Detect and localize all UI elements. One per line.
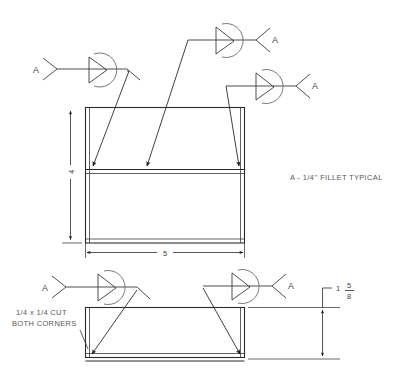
width-dimension: 5 xyxy=(86,243,245,259)
thickness-dim-whole: 1 xyxy=(336,284,340,293)
cut-note-line-2: BOTH CORNERS xyxy=(12,319,77,328)
drawing-canvas: 4 5 xyxy=(0,0,407,383)
height-dim-value: 4 xyxy=(67,170,76,174)
cut-note-line-1: 1/4 x 1/4 CUT xyxy=(16,308,67,317)
weld-symbol-upper-left-label: A xyxy=(33,65,39,75)
weld-symbol-lower-left[interactable]: A xyxy=(42,271,150,305)
width-dim-value: 5 xyxy=(163,249,167,258)
leader-lines-upper xyxy=(93,40,239,166)
fillet-typical-note: A - 1/4'' FILLET TYPICAL xyxy=(290,173,383,182)
weld-symbol-lower-right-label: A xyxy=(288,281,294,291)
weld-symbol-upper-right-label: A xyxy=(312,81,318,91)
weld-symbol-upper-center-label: A xyxy=(272,35,278,45)
weld-symbol-upper-right[interactable]: A xyxy=(226,70,318,104)
height-dimension: 4 xyxy=(62,111,82,243)
weld-symbol-upper-center[interactable]: A xyxy=(188,24,278,58)
weld-symbol-lower-right[interactable]: A xyxy=(203,270,294,304)
welding-drawing-page: 4 5 xyxy=(0,0,407,383)
thickness-dim-numerator: 5 xyxy=(347,281,351,290)
thickness-dimension: 1 5 8 xyxy=(248,281,354,359)
weld-symbol-upper-left[interactable]: A xyxy=(33,53,140,87)
front-view-geometry xyxy=(86,108,245,244)
thickness-dim-denominator: 8 xyxy=(347,292,351,301)
leader-lines-lower xyxy=(80,288,240,354)
weld-symbol-lower-left-label: A xyxy=(42,283,48,293)
side-view-geometry xyxy=(86,308,245,362)
